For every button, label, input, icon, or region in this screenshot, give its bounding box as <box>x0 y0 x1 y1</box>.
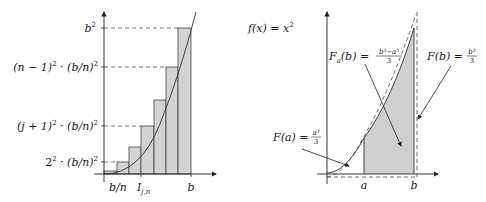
label-b-over-n: b/n <box>109 181 127 194</box>
label-b-squared: b2 <box>84 21 96 35</box>
label-interval-j-n: Ij,n <box>136 181 151 196</box>
label-b: b <box>187 181 194 194</box>
label-Fab: Fa(b) = b³−a³ 3 <box>328 48 402 65</box>
svg-text:3: 3 <box>314 138 318 146</box>
function-label: f(x) = x2 <box>247 21 294 35</box>
label-j-plus-1: (j + 1)2 · (b/n)2 <box>17 119 98 133</box>
figure: b2 (n − 1)2 · (b/n)2 (j + 1)2 · (b/n)2 2… <box>0 0 486 202</box>
label-two-squared: 22 · (b/n)2 <box>45 155 98 169</box>
svg-text:3: 3 <box>470 57 474 65</box>
arrow-Fa <box>302 149 349 166</box>
label-n-minus-1: (n − 1)2 · (b/n)2 <box>13 60 98 74</box>
svg-text:F(b) =: F(b) = <box>426 50 463 63</box>
svg-text:a³: a³ <box>313 129 320 137</box>
right-antiderivative-diagram: f(x) = x2 Fa(b) = b³−a³ 3 F(b) = b³ 3 F(… <box>247 12 477 192</box>
svg-text:Fa(b) =: Fa(b) = <box>328 50 369 65</box>
riemann-bars <box>104 28 191 174</box>
svg-text:b³−a³: b³−a³ <box>379 48 399 56</box>
left-riemann-diagram: b2 (n − 1)2 · (b/n)2 (j + 1)2 · (b/n)2 2… <box>13 12 216 196</box>
arrow-Fb <box>418 66 451 119</box>
label-Fa: F(a) = a³ 3 <box>272 129 321 146</box>
svg-text:F(a) =: F(a) = <box>272 131 309 144</box>
svg-text:3: 3 <box>387 57 391 65</box>
svg-text:b³: b³ <box>468 48 475 56</box>
label-b-right: b <box>410 179 417 192</box>
label-a: a <box>361 179 368 192</box>
label-Fb: F(b) = b³ 3 <box>426 48 477 65</box>
